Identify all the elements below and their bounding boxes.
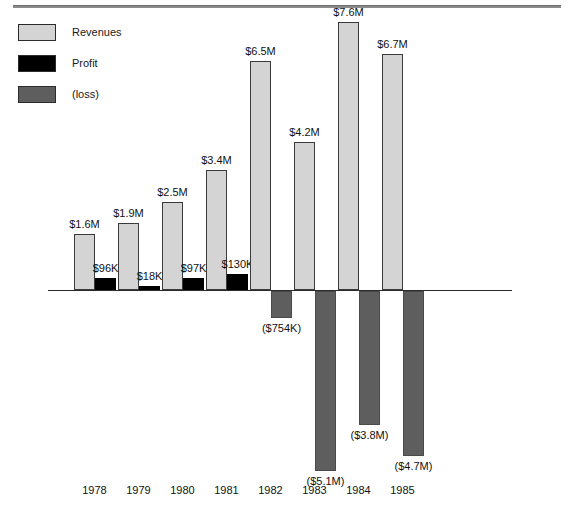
- value-label-loss-1982: ($754K): [254, 322, 310, 335]
- bar-loss-1982: [271, 291, 292, 318]
- value-label-revenue-1985: $6.7M: [365, 38, 421, 51]
- bar-revenue-1983: [294, 142, 315, 290]
- bar-revenue-1980: [162, 202, 183, 290]
- bar-revenue-1982: [250, 61, 271, 290]
- bar-loss-1984: [359, 291, 380, 425]
- value-label-revenue-1984: $7.6M: [321, 6, 377, 19]
- value-label-loss-1984: ($3.8M): [342, 429, 398, 442]
- value-label-revenue-1979: $1.9M: [101, 207, 157, 220]
- x-axis-label-1985: 1985: [380, 484, 425, 497]
- bar-revenue-1984: [338, 22, 359, 290]
- bar-profit-1979: [139, 286, 160, 290]
- x-axis-label-1984: 1984: [336, 484, 381, 497]
- value-label-revenue-1981: $3.4M: [189, 154, 245, 167]
- x-axis-label-1980: 1980: [160, 484, 205, 497]
- x-axis-label-1979: 1979: [116, 484, 161, 497]
- x-axis-label-1982: 1982: [248, 484, 293, 497]
- financial-bar-chart: Revenues Profit (loss) $1.6M$96K$1.9M$18…: [0, 0, 582, 511]
- value-label-revenue-1982: $6.5M: [233, 45, 289, 58]
- bar-loss-1983: [315, 291, 336, 471]
- x-axis-label-1978: 1978: [72, 484, 117, 497]
- bar-profit-1978: [95, 278, 116, 290]
- value-label-revenue-1983: $4.2M: [277, 126, 333, 139]
- bar-revenue-1981: [206, 170, 227, 290]
- value-label-revenue-1980: $2.5M: [145, 186, 201, 199]
- plot-area: $1.6M$96K$1.9M$18K$2.5M$97K$3.4M$130K$6.…: [0, 0, 582, 511]
- bar-revenue-1985: [382, 54, 403, 290]
- bar-profit-1981: [227, 274, 248, 290]
- bar-loss-1985: [403, 291, 424, 456]
- value-label-loss-1985: ($4.7M): [386, 460, 442, 473]
- bar-profit-1980: [183, 278, 204, 290]
- x-axis-label-1983: 1983: [292, 484, 337, 497]
- x-axis-label-1981: 1981: [204, 484, 249, 497]
